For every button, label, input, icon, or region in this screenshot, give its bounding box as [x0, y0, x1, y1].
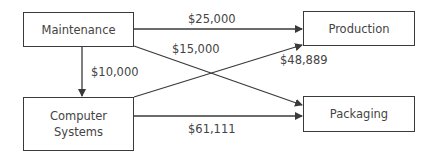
node-computer-systems-label-line2: Systems	[54, 124, 103, 140]
edge-label-maintenance-production: $25,000	[188, 12, 236, 26]
edge-label-maintenance-packaging: $15,000	[172, 42, 220, 56]
node-computer-systems-label-line1: Computer	[50, 108, 107, 124]
allocation-diagram: Maintenance Production Computer Systems …	[0, 0, 436, 161]
edge-label-maintenance-computer-systems: $10,000	[91, 65, 139, 79]
edge-label-computer-systems-production: $48,889	[280, 53, 328, 67]
node-packaging-label: Packaging	[330, 106, 388, 122]
node-maintenance-label: Maintenance	[41, 22, 115, 38]
node-packaging: Packaging	[303, 96, 415, 132]
node-computer-systems: Computer Systems	[23, 97, 134, 151]
node-production: Production	[303, 11, 415, 46]
node-maintenance: Maintenance	[23, 12, 134, 47]
edge-label-computer-systems-packaging: $61,111	[188, 122, 236, 136]
node-production-label: Production	[328, 21, 389, 37]
